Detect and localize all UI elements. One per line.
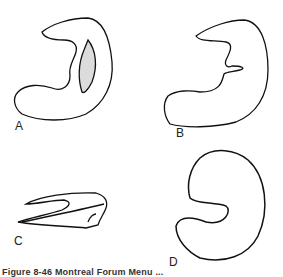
panel-label-c: C [14,234,23,248]
panel-a-drawing [15,18,113,120]
figure-caption: Figure 8-46 Montreal Forum Menu ... [2,267,164,277]
panel-label-b: B [176,126,184,140]
panel-d-drawing [176,151,265,260]
panel-label-d: D [169,255,178,269]
panel-label-a: A [15,119,23,133]
panel-b-drawing [164,20,268,127]
panel-c-drawing [18,193,107,228]
